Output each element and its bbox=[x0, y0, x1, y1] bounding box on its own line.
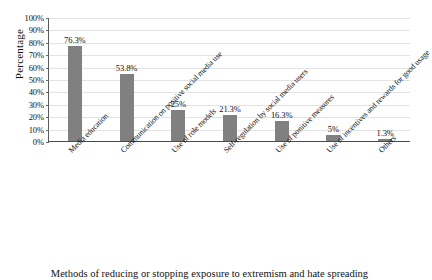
y-axis-tick bbox=[46, 68, 49, 69]
y-axis-tick bbox=[46, 130, 49, 131]
y-axis-tick bbox=[46, 92, 49, 93]
y-axis-tick bbox=[46, 80, 49, 81]
gridline bbox=[49, 80, 410, 81]
gridline bbox=[49, 92, 410, 93]
gridline bbox=[49, 18, 410, 19]
bar bbox=[120, 74, 134, 141]
y-axis-tick-label: 90% bbox=[29, 25, 44, 35]
y-axis-tick bbox=[46, 55, 49, 56]
gridline bbox=[49, 68, 410, 69]
y-axis-tick bbox=[46, 30, 49, 31]
y-axis-tick-label: 60% bbox=[29, 63, 44, 73]
bar-value-label: 76.3% bbox=[64, 35, 85, 45]
y-axis-tick-label: 0% bbox=[33, 137, 44, 147]
gridline bbox=[49, 55, 410, 56]
y-axis-tick bbox=[46, 18, 49, 19]
y-axis-tick-label: 20% bbox=[29, 112, 44, 122]
y-axis-tick-label: 70% bbox=[29, 50, 44, 60]
gridline bbox=[49, 30, 410, 31]
y-axis-tick-label: 50% bbox=[29, 75, 44, 85]
bar bbox=[68, 46, 82, 141]
y-axis-tick-label: 100% bbox=[25, 13, 44, 23]
y-axis-tick-label: 30% bbox=[29, 100, 44, 110]
bar-value-label: 16.3% bbox=[271, 110, 292, 120]
y-axis-tick-label: 80% bbox=[29, 38, 44, 48]
y-axis-tick-label: 40% bbox=[29, 87, 44, 97]
y-axis-title: Percentage bbox=[13, 9, 25, 99]
bar-value-label: 5% bbox=[328, 124, 339, 134]
y-axis-tick bbox=[46, 142, 49, 143]
bar-value-label: 53.8% bbox=[116, 63, 137, 73]
y-axis-tick bbox=[46, 117, 49, 118]
y-axis-tick bbox=[46, 105, 49, 106]
y-axis-tick-label: 10% bbox=[29, 125, 44, 135]
gridline bbox=[49, 43, 410, 44]
bar-value-label: 21.3% bbox=[219, 104, 240, 114]
x-axis-title: Methods of reducing or stopping exposure… bbox=[0, 268, 419, 279]
y-axis-tick bbox=[46, 43, 49, 44]
